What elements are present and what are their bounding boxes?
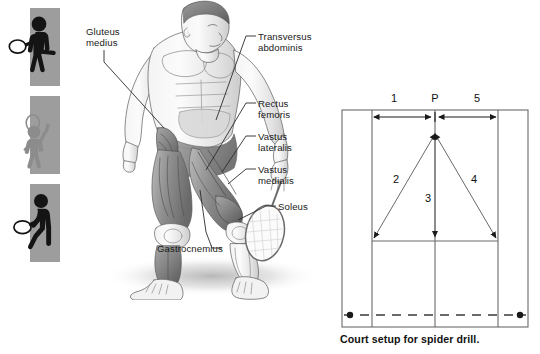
spider-drill-court-diagram: 1 P 5 2 3 4 (330, 86, 540, 354)
label-vastus-lateralis: Vastus lateralis (258, 131, 292, 154)
label-gastrocnemius: Gastrocnemius (157, 243, 223, 254)
tennis-player-forehand-icon (8, 8, 66, 86)
label-vastus-medialis: Vastus medialis (258, 164, 294, 187)
court-label-2: 2 (393, 173, 399, 185)
drill-path-4 (435, 134, 496, 238)
tennis-player-volley-icon (8, 184, 66, 262)
court-label-1: 1 (391, 92, 397, 104)
figure-shadow (104, 256, 320, 296)
label-transversus-abdominis: Transversus abdominis (258, 31, 312, 54)
label-gluteus-medius: Gluteus medius (86, 26, 120, 49)
court-diagram-caption: Court setup for spider drill. (340, 333, 479, 345)
court-label-3: 3 (425, 192, 431, 204)
ball-marker-right (517, 312, 523, 318)
ball-marker-left (347, 312, 353, 318)
label-rectus-femoris: Rectus femoris (258, 98, 290, 121)
figure-page: Gluteus medius Transversus abdominis Rec… (0, 0, 540, 354)
court-label-P: P (431, 92, 438, 104)
sport-icon-strip (0, 0, 64, 354)
court-label-5: 5 (474, 92, 480, 104)
court-label-4: 4 (471, 173, 477, 185)
drill-path-2 (374, 134, 435, 238)
tennis-player-serve-icon (8, 96, 66, 174)
label-soleus: Soleus (278, 201, 308, 212)
